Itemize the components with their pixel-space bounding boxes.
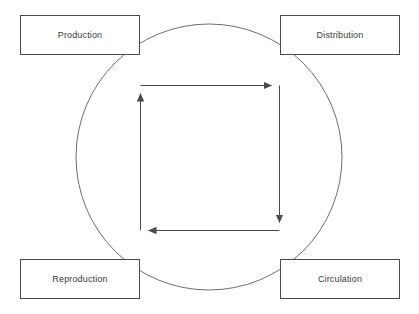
node-box-reproduction[interactable]: Reproduction	[20, 259, 140, 299]
cycle-circle-group	[76, 24, 342, 290]
node-box-distribution[interactable]: Distribution	[280, 15, 400, 55]
node-label-distribution: Distribution	[317, 30, 364, 41]
node-label-reproduction: Reproduction	[52, 274, 107, 285]
node-box-production[interactable]: Production	[20, 15, 140, 55]
cycle-circle	[76, 24, 342, 290]
inner-flow-group	[141, 86, 280, 231]
node-box-circulation[interactable]: Circulation	[280, 259, 400, 299]
diagram-canvas: Production Distribution Reproduction Cir…	[0, 0, 419, 314]
node-label-circulation: Circulation	[318, 274, 362, 285]
node-label-production: Production	[58, 30, 103, 41]
